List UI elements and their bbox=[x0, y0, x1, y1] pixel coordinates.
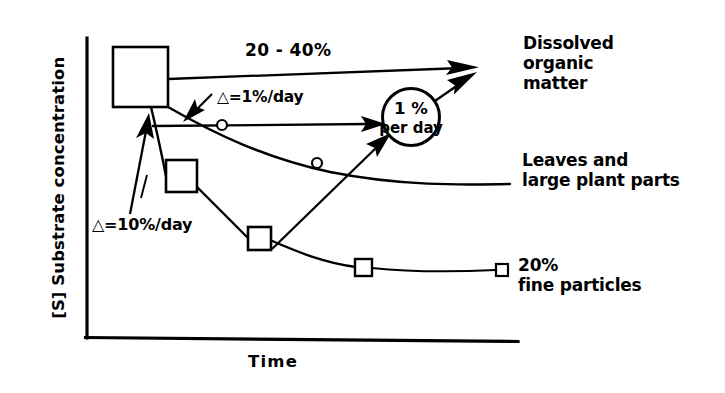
pointer-delta-slow bbox=[183, 94, 212, 122]
label-leaves-and-plants: Leaves and large plant parts bbox=[522, 150, 680, 190]
crossing-node-upper bbox=[217, 120, 227, 130]
flux-arrow-recycle-shaft bbox=[130, 131, 146, 214]
rate-node-circle: 1 % per day bbox=[379, 89, 443, 146]
pool-marker-largest bbox=[113, 47, 168, 107]
flux-arrow-circle-to-dom bbox=[432, 72, 477, 103]
figure-root: [S] Substrate concentration bbox=[0, 0, 725, 393]
label-delta-slow: △=1%/day bbox=[217, 88, 303, 106]
fines-curve-seg1 bbox=[151, 107, 166, 176]
flux-arrow-mid-shaft bbox=[152, 124, 368, 126]
pointer-delta-fast bbox=[141, 175, 147, 198]
diagram-canvas: 1 % per day bbox=[0, 0, 725, 393]
label-fine-particles: 20% fine particles bbox=[518, 255, 642, 295]
pointer-delta-slow-head bbox=[183, 99, 205, 122]
x-axis-line bbox=[86, 338, 519, 342]
flux-arrow-top-shaft bbox=[168, 68, 462, 79]
leaves-curve-path bbox=[168, 107, 510, 185]
flux-arrow-fines-to-circle bbox=[272, 133, 391, 249]
rate-node-line1: 1 % bbox=[394, 99, 428, 118]
flux-arrow-top bbox=[168, 60, 479, 79]
label-delta-fast: △=10%/day bbox=[92, 216, 192, 235]
pool-marker-medium bbox=[248, 227, 271, 250]
x-axis-title: Time bbox=[248, 352, 298, 371]
pool-marker-small bbox=[355, 259, 372, 276]
label-top-flux-percent: 20 - 40% bbox=[245, 40, 331, 60]
rate-node-line2: per day bbox=[379, 119, 443, 137]
substrate-pool-markers bbox=[113, 47, 508, 276]
fines-curve-seg3 bbox=[270, 240, 356, 267]
flux-arrow-circle-head bbox=[447, 72, 477, 95]
flux-arrow-recycle-up bbox=[130, 113, 154, 214]
fines-curve-seg2 bbox=[196, 186, 248, 238]
pool-marker-tiny bbox=[496, 264, 508, 276]
leaves-decay-curve bbox=[168, 107, 510, 185]
label-dissolved-organic-matter: Dissolved organic matter bbox=[523, 33, 614, 93]
fines-curve-seg4 bbox=[372, 268, 496, 271]
crossing-node-lower bbox=[312, 158, 322, 168]
pointer-delta-fast-line bbox=[141, 175, 147, 198]
fine-particle-decay-curve bbox=[151, 107, 496, 271]
pool-marker-large bbox=[166, 160, 197, 192]
